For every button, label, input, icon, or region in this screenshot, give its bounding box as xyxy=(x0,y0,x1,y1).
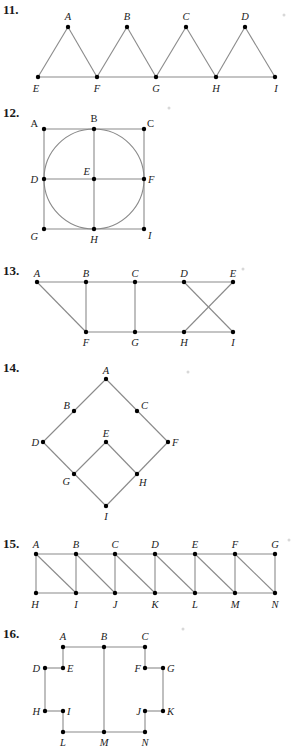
figure-number: 14. xyxy=(3,360,19,375)
vertex-label-B: B xyxy=(101,631,108,642)
vertex-A xyxy=(35,280,39,284)
vertex-label-F: F xyxy=(93,83,101,94)
vertex-C xyxy=(142,127,146,131)
vertex-F xyxy=(142,177,146,181)
vertex-label-N: N xyxy=(140,737,149,748)
vertex-label-G: G xyxy=(131,337,139,348)
vertex-label-E: E xyxy=(83,166,91,177)
figure-13: 13.ABCDEFGHI xyxy=(3,263,237,348)
vertex-C xyxy=(135,409,139,413)
vertex-label-G: G xyxy=(167,663,175,674)
edge-FN xyxy=(235,554,275,593)
vertex-label-M: M xyxy=(99,737,110,748)
figure-number: 12. xyxy=(3,105,19,120)
vertex-label-H: H xyxy=(179,337,189,348)
vertex-label-B: B xyxy=(83,268,90,279)
vertex-label-H: H xyxy=(138,477,148,488)
vertex-label-B: B xyxy=(64,400,71,411)
vertex-label-D: D xyxy=(29,174,38,185)
vertex-E xyxy=(104,440,108,444)
vertex-I xyxy=(104,504,108,508)
vertex-label-B: B xyxy=(90,113,97,124)
vertex-label-F: F xyxy=(147,174,155,185)
vertex-label-L: L xyxy=(59,737,66,748)
figure-14: 14.ABCDEFGHI xyxy=(3,360,179,522)
vertex-A xyxy=(61,645,65,649)
vertex-label-E: E xyxy=(229,268,237,279)
vertex-H xyxy=(135,472,139,476)
vertex-label-D: D xyxy=(150,539,159,550)
vertex-G xyxy=(42,227,46,231)
graph-exercise-page: 11.ABCDEFGHI12.ABCDEFGHI13.ABCDEFGHI14.A… xyxy=(0,0,302,754)
vertex-label-H: H xyxy=(211,83,221,94)
edge-FB xyxy=(97,27,127,77)
vertex-label-C: C xyxy=(111,539,119,550)
vertex-N xyxy=(273,591,277,595)
vertex-B xyxy=(125,25,129,29)
vertex-K xyxy=(161,709,165,713)
vertex-D xyxy=(153,552,157,556)
vertex-H xyxy=(43,709,47,713)
vertex-E xyxy=(36,75,40,79)
vertex-H xyxy=(214,75,218,79)
vertex-I xyxy=(231,330,235,334)
scan-speck xyxy=(182,628,185,631)
vertex-G xyxy=(72,472,76,476)
vertex-G xyxy=(133,330,137,334)
vertex-label-N: N xyxy=(270,599,279,610)
vertex-label-C: C xyxy=(147,118,154,129)
vertex-label-G: G xyxy=(152,83,160,94)
edge-BJ xyxy=(76,554,115,593)
vertex-D xyxy=(243,25,247,29)
edge-EG xyxy=(74,442,106,474)
scan-speck xyxy=(283,14,286,17)
vertex-B xyxy=(92,127,96,131)
vertex-J xyxy=(143,709,147,713)
vertex-D xyxy=(182,280,186,284)
vertex-label-H: H xyxy=(30,599,40,610)
figure-11: 11.ABCDEFGHI xyxy=(3,2,278,94)
vertex-label-A: A xyxy=(64,11,72,22)
vertex-label-G: G xyxy=(30,231,38,242)
vertex-label-I: I xyxy=(73,599,78,610)
vertex-label-E: E xyxy=(32,83,40,94)
vertex-I xyxy=(273,75,277,79)
vertex-label-A: A xyxy=(59,631,67,642)
vertex-label-L: L xyxy=(191,599,198,610)
edge-AF xyxy=(68,27,97,77)
vertex-B xyxy=(74,552,78,556)
edge-GC xyxy=(156,27,186,77)
vertex-label-D: D xyxy=(31,663,40,674)
edge-DL xyxy=(155,554,195,593)
vertex-label-H: H xyxy=(89,234,99,245)
vertex-label-A: A xyxy=(32,539,40,550)
vertex-label-J: J xyxy=(113,599,119,610)
vertex-label-A: A xyxy=(30,118,38,129)
vertex-I xyxy=(142,227,146,231)
vertex-C xyxy=(143,645,147,649)
vertex-H xyxy=(92,227,96,231)
edge-DI xyxy=(245,27,275,77)
vertex-B xyxy=(72,409,76,413)
scan-speck xyxy=(242,268,245,271)
vertex-label-I: I xyxy=(147,230,152,241)
vertex-label-I: I xyxy=(103,511,108,522)
edge-HD xyxy=(216,27,245,77)
vertex-label-J: J xyxy=(136,706,142,717)
figure-number: 11. xyxy=(3,2,19,17)
vertex-F xyxy=(143,666,147,670)
vertex-G xyxy=(273,552,277,556)
edge-EM xyxy=(195,554,235,593)
figure-16: 16.ABCDEFGHIJKLMN xyxy=(3,626,175,748)
vertex-G xyxy=(161,666,165,670)
vertex-label-B: B xyxy=(124,11,131,22)
vertex-label-I: I xyxy=(230,337,235,348)
vertex-F xyxy=(95,75,99,79)
vertex-label-F: F xyxy=(171,437,179,448)
vertex-label-D: D xyxy=(179,268,188,279)
vertex-label-I: I xyxy=(66,706,71,717)
vertex-F xyxy=(84,330,88,334)
vertex-label-C: C xyxy=(131,268,139,279)
vertex-D xyxy=(41,440,45,444)
edge-EH xyxy=(106,442,137,474)
